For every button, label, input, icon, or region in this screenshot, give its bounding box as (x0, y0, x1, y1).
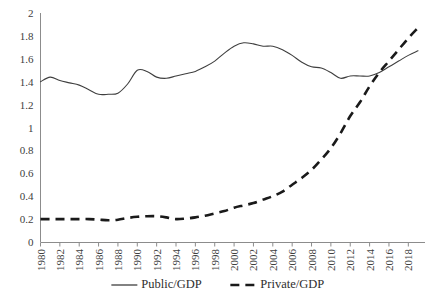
x-axis-tick-marks (41, 243, 409, 247)
chart-canvas: 00.20.40.60.811.21.41.61.82 198019821984… (0, 0, 441, 301)
y-axis: 00.20.40.60.811.21.41.61.82 (20, 7, 41, 248)
y-tick-label: 1.8 (20, 30, 34, 42)
x-tick-label: 2002 (247, 249, 259, 271)
y-tick-label: 1.4 (20, 76, 34, 88)
y-tick-label: 1.6 (20, 53, 34, 65)
y-tick-label: 0 (28, 236, 34, 248)
y-tick-label: 0.2 (20, 213, 34, 225)
y-tick-label: 0.8 (20, 144, 34, 156)
y-tick-label: 0.6 (20, 167, 34, 179)
x-tick-label: 2008 (306, 249, 318, 272)
chart-legend: Public/GDPPrivate/GDP (111, 277, 324, 291)
legend-label-private-gdp: Private/GDP (260, 277, 324, 291)
series-line-private-gdp (41, 28, 419, 220)
chart-series-group (41, 28, 419, 220)
x-tick-label: 2004 (267, 249, 279, 272)
x-tick-label: 2010 (325, 249, 337, 272)
x-tick-label: 1996 (189, 249, 201, 272)
x-tick-label: 1998 (209, 249, 221, 272)
x-tick-label: 1988 (112, 249, 124, 272)
y-tick-label: 1 (28, 122, 34, 134)
x-tick-label: 1982 (54, 249, 66, 271)
y-tick-label: 0.4 (20, 190, 34, 202)
x-tick-label: 1980 (35, 249, 47, 272)
x-tick-label: 2006 (286, 249, 298, 272)
x-tick-label: 1986 (93, 249, 105, 272)
series-line-public-gdp (41, 43, 419, 95)
y-axis-tick-labels: 00.20.40.60.811.21.41.61.82 (20, 7, 34, 248)
x-tick-label: 2014 (364, 249, 376, 272)
x-tick-label: 1984 (73, 249, 85, 272)
x-tick-label: 1990 (131, 249, 143, 272)
y-tick-label: 2 (28, 7, 34, 19)
x-tick-label: 2018 (402, 249, 414, 272)
x-tick-label: 1992 (151, 249, 163, 271)
x-tick-label: 2012 (344, 249, 356, 271)
x-tick-label: 2000 (228, 249, 240, 272)
line-chart: 00.20.40.60.811.21.41.61.82 198019821984… (0, 0, 441, 301)
x-axis-tick-labels: 1980198219841986198819901992199419961998… (35, 249, 415, 272)
x-tick-label: 1994 (170, 249, 182, 272)
legend-label-public-gdp: Public/GDP (141, 277, 201, 291)
y-tick-label: 1.2 (20, 99, 34, 111)
x-axis: 1980198219841986198819901992199419961998… (35, 243, 426, 272)
x-tick-label: 2016 (383, 249, 395, 272)
